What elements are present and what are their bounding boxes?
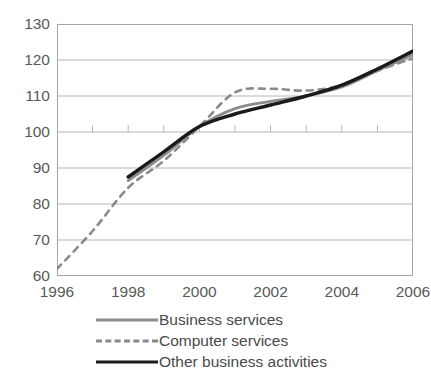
legend-line-icon xyxy=(96,356,158,368)
line-other-business-activities xyxy=(128,51,413,177)
y-tick-label: 130 xyxy=(2,16,50,32)
legend-item-label: Computer services xyxy=(158,332,288,349)
legend-item-business-services[interactable]: Business services xyxy=(96,309,283,330)
legend-item-label: Business services xyxy=(158,311,283,328)
chart-title xyxy=(0,0,431,11)
legend-item-label: Other business activities xyxy=(158,353,327,370)
x-tick-label: 1996 xyxy=(27,282,87,301)
y-tick-label: 80 xyxy=(2,196,50,212)
x-tick-marks xyxy=(93,125,378,132)
y-tick-label: 100 xyxy=(2,124,50,140)
y-tick-label: 70 xyxy=(2,232,50,248)
chart-legend: Business services Computer services Othe… xyxy=(0,309,431,375)
x-tick-label: 1998 xyxy=(98,282,158,301)
y-tick-label: 90 xyxy=(2,160,50,176)
line-computer-services xyxy=(57,58,413,269)
legend-dashed-line-icon xyxy=(96,335,158,347)
legend-item-computer-services[interactable]: Computer services xyxy=(96,330,288,351)
y-tick-label: 120 xyxy=(2,52,50,68)
x-tick-label: 2000 xyxy=(169,282,229,301)
legend-item-other-business-activities[interactable]: Other business activities xyxy=(96,351,327,372)
plot-area xyxy=(57,24,413,276)
legend-line-icon xyxy=(96,314,158,326)
y-tick-label: 110 xyxy=(2,88,50,104)
x-tick-label: 2004 xyxy=(312,282,372,301)
x-axis-labels: 199619982000200220042006 xyxy=(0,282,431,304)
chart-svg xyxy=(57,24,413,276)
gridlines xyxy=(57,60,413,240)
x-tick-label: 2006 xyxy=(383,282,431,301)
x-tick-label: 2002 xyxy=(241,282,301,301)
chart-container: 13012011010090807060 1996199820002002200… xyxy=(0,0,431,378)
data-lines xyxy=(57,51,413,269)
